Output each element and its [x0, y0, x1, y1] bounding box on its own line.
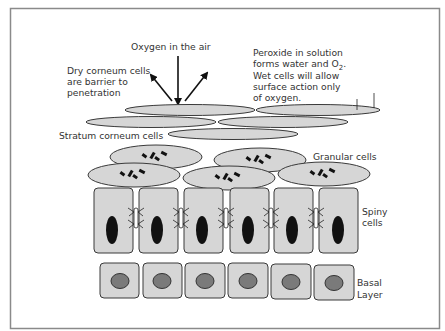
corneum-cell — [125, 105, 255, 116]
granular-cell — [278, 162, 370, 186]
basal-nucleus — [282, 275, 300, 290]
corneum-cell — [86, 117, 216, 128]
stratum-corneum-label: Stratum corneum cells — [59, 130, 163, 141]
oxygen-label: Oxygen in the air — [131, 41, 211, 52]
basal-layer — [100, 263, 354, 300]
dry-corneum-label-line1: Dry corneum cells — [67, 65, 150, 76]
basal-nucleus — [196, 274, 214, 289]
basal-cell — [228, 263, 268, 298]
basal-label-line1: Basal — [357, 277, 382, 288]
spiny-layer — [94, 188, 358, 253]
reflect-right-arrow — [185, 73, 207, 101]
corneum-cell — [218, 117, 348, 128]
spiny-cell — [319, 188, 358, 253]
peroxide-label-line5: of oxygen. — [253, 92, 301, 103]
spiny-nucleus — [106, 216, 118, 244]
dry-corneum-label-line2: are barrier to — [67, 76, 128, 87]
basal-nucleus — [111, 274, 129, 289]
peroxide-label-line3: Wet cells will allow — [253, 70, 340, 81]
spiny-nucleus — [286, 216, 298, 244]
reflect-left-arrow — [151, 75, 172, 101]
spiny-label-line2: cells — [362, 217, 383, 228]
basal-cell — [100, 263, 139, 298]
peroxide-label-line4: surface action only — [253, 81, 341, 92]
basal-cell — [185, 263, 225, 298]
spiny-cell — [274, 188, 313, 253]
spiny-nucleus — [332, 216, 344, 244]
spiny-nucleus — [242, 216, 254, 244]
dry-corneum-label-line3: penetration — [67, 87, 121, 98]
basal-cell — [271, 264, 311, 299]
granular-cell — [183, 166, 275, 190]
basal-nucleus — [325, 276, 343, 291]
basal-nucleus — [239, 274, 257, 289]
spiny-label-line1: Spiny — [362, 206, 388, 217]
spiny-cell — [94, 188, 133, 253]
spiny-cell — [184, 188, 223, 253]
peroxide-label-line1: Peroxide in solution — [253, 47, 343, 58]
basal-cell — [314, 265, 354, 300]
basal-nucleus — [153, 274, 171, 289]
granular-cell — [88, 163, 180, 187]
basal-label-line2: Layer — [357, 289, 383, 300]
granular-label: Granular cells — [313, 151, 377, 162]
oxygen-arrows — [151, 56, 207, 104]
spiny-nucleus — [196, 216, 208, 244]
skin-layers-diagram: Oxygen in the air Dry corneum cells are … — [0, 0, 445, 331]
basal-cell — [143, 263, 182, 298]
spiny-cell — [139, 188, 178, 253]
corneum-cell — [168, 129, 298, 140]
corneum-cell — [256, 105, 380, 116]
spiny-nucleus — [151, 216, 163, 244]
